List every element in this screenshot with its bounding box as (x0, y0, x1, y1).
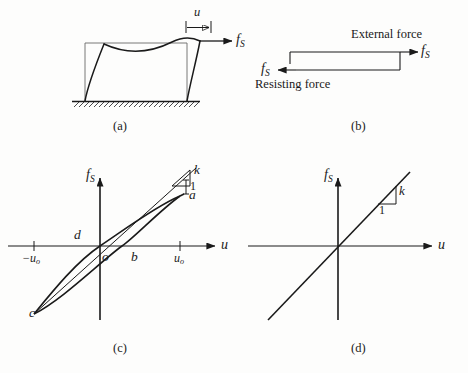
panel-a-force-subscript: S (240, 39, 245, 49)
panel-b-force-right-label: fS (421, 44, 430, 60)
panel-d-slope-k-label: k (399, 184, 405, 197)
panel-c-tick-positive-label: uo (174, 252, 184, 266)
panel-d-caption: (d) (351, 342, 366, 355)
panel-c-point-c-label: c (29, 306, 35, 320)
panel-c-yaxis-subscript: S (90, 174, 95, 184)
panel-c-secant-line (34, 168, 196, 314)
panel-c-xaxis-label: u (221, 238, 228, 252)
panel-d-slope-one-label: 1 (379, 204, 385, 216)
panel-c-point-d-label: d (74, 228, 81, 242)
ground-hatching (74, 102, 199, 107)
panel-b-external-force-label: External force (351, 28, 422, 41)
panel-a-force-label: fS (236, 33, 245, 49)
panel-c-yaxis-label: fS (86, 168, 95, 184)
figure-container: u fS (a) External force fS fS Resisting … (0, 0, 468, 373)
panel-b-resisting-force-label: Resisting force (255, 78, 330, 91)
panel-c-tick-negative-subscript: o (36, 257, 40, 266)
displacement-dimension (186, 21, 211, 33)
panel-a-displacement-label: u (194, 6, 200, 19)
panel-c-slope-k-label: k (194, 163, 200, 176)
panel-d-yaxis-label: fS (324, 168, 333, 184)
panel-d-yaxis-subscript: S (328, 174, 333, 184)
panel-a-graphics (72, 21, 232, 107)
panel-b-graphics (278, 52, 418, 70)
panel-a-caption: (a) (113, 120, 127, 133)
panel-c-point-b-label: b (131, 250, 138, 264)
figure-linework (0, 0, 468, 373)
deformed-frame (85, 38, 200, 101)
panel-c-origin-label: o (102, 250, 109, 264)
panel-c-slope-one-label: 1 (190, 180, 196, 192)
panel-c-tick-negative-label: −uo (22, 252, 40, 266)
panel-c-graphics (8, 168, 215, 320)
panel-b-force-right-subscript: S (425, 50, 430, 60)
panel-b-force-left-label: fS (261, 62, 270, 78)
panel-c-tick-positive-subscript: o (180, 257, 184, 266)
panel-c-caption: (c) (113, 342, 127, 355)
panel-b-caption: (b) (351, 120, 366, 133)
panel-d-xaxis-label: u (438, 238, 445, 252)
